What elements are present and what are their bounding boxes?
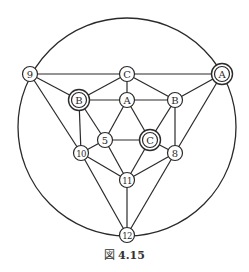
node-label: C <box>123 69 131 80</box>
node-nAd: A <box>212 64 233 85</box>
node-label: 5 <box>102 135 108 146</box>
node-label: 12 <box>122 231 132 241</box>
node-n10: 10 <box>74 146 89 161</box>
node-label: 10 <box>76 149 86 159</box>
node-label: B <box>75 95 82 106</box>
node-label: 8 <box>172 148 178 159</box>
edge-nAd-n8 <box>175 74 222 153</box>
node-label: A <box>217 69 226 80</box>
edge-n8-n12 <box>127 153 175 235</box>
caption-number: 4.15 <box>118 249 145 262</box>
node-nCt: C <box>120 67 135 82</box>
graph-diagram: 9CABAB5C1081112 <box>0 0 249 272</box>
node-nCd: C <box>140 130 161 151</box>
node-nBr: B <box>168 93 183 108</box>
node-n11: 11 <box>120 173 135 188</box>
node-n8: 8 <box>168 146 183 161</box>
node-nAm: A <box>120 93 135 108</box>
node-n9: 9 <box>23 67 38 82</box>
node-label: C <box>146 135 154 146</box>
node-label: B <box>171 95 178 106</box>
figure-caption: 図4.15 <box>0 246 249 262</box>
node-nBd: B <box>69 90 90 111</box>
edge-n10-n12 <box>81 153 127 235</box>
node-label: 9 <box>27 69 33 80</box>
node-n12: 12 <box>120 228 135 243</box>
node-label: A <box>122 95 131 106</box>
node-n5: 5 <box>98 133 113 148</box>
edge-n9-n10 <box>30 74 81 153</box>
caption-prefix: 図 <box>104 249 115 262</box>
edge-nCt-nBr <box>127 74 175 100</box>
node-label: 11 <box>122 176 132 186</box>
